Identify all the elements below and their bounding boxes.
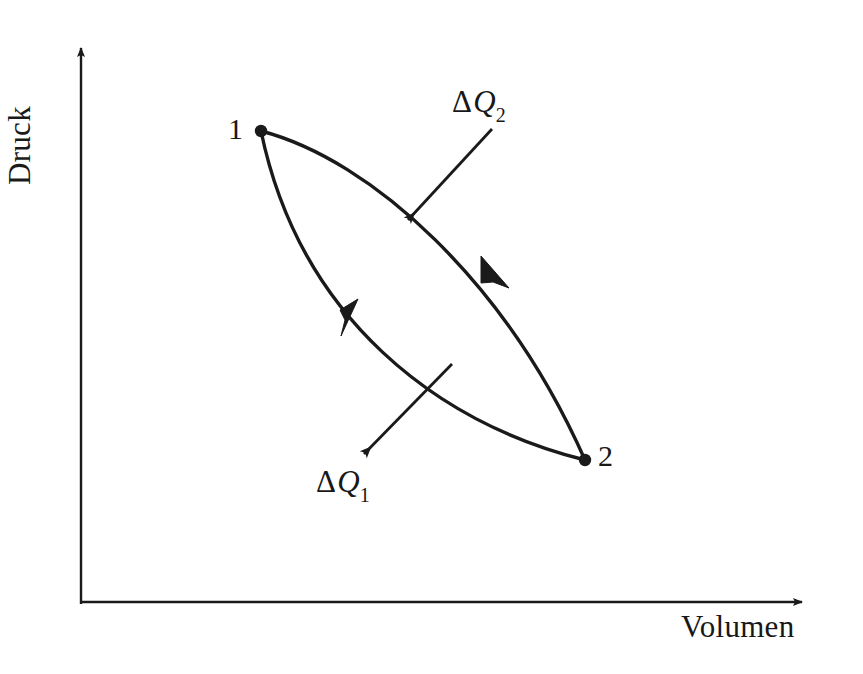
state-point-2-marker	[579, 454, 591, 466]
delta-glyph-q1: Δ	[316, 464, 336, 499]
delta-glyph-q2: Δ	[452, 84, 472, 119]
subscript-glyph-q2: 2	[496, 104, 506, 126]
process-curve-lower	[261, 131, 585, 460]
state-point-1-label: 1	[228, 114, 243, 144]
q-glyph-q1: Q	[336, 464, 360, 499]
heat-annotation-label-q2: ΔQ2	[452, 86, 506, 122]
x-axis-title: Volumen	[681, 611, 794, 642]
lower-curve-direction-arrow	[340, 299, 358, 336]
y-axis-title: Druck	[2, 106, 38, 185]
upper-curve-direction-arrow	[481, 256, 509, 288]
state-point-2-label: 2	[598, 441, 613, 471]
pv-diagram-figure: Druck Volumen 1 2 ΔQ2 ΔQ1	[0, 0, 863, 674]
q-glyph-q2: Q	[472, 84, 496, 119]
heat-1-leader-line	[364, 364, 452, 454]
state-point-1-marker	[255, 125, 267, 137]
heat-2-leader-line	[408, 129, 492, 220]
diagram-canvas	[0, 0, 863, 674]
process-curve-upper	[261, 131, 585, 460]
subscript-glyph-q1: 1	[360, 484, 370, 506]
heat-annotation-label-q1: ΔQ1	[316, 466, 370, 502]
